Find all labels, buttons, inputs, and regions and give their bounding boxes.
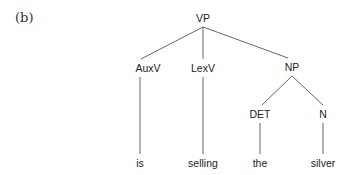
- leaf-is: is: [136, 157, 144, 169]
- node-auxv: AuxV: [135, 62, 160, 74]
- node-det: DET: [250, 108, 271, 120]
- node-vp: VP: [196, 12, 210, 24]
- tree-edges: [0, 0, 348, 175]
- edge-vp-auxv: [141, 27, 203, 59]
- edge-np-n: [292, 76, 323, 105]
- leaf-the: the: [253, 157, 268, 169]
- leaf-selling: selling: [188, 157, 218, 169]
- node-np: NP: [285, 61, 300, 73]
- edge-np-det: [262, 76, 292, 105]
- node-lexv: LexV: [191, 62, 215, 74]
- node-n: N: [319, 108, 327, 120]
- edge-vp-np: [203, 27, 288, 58]
- leaf-silver: silver: [311, 157, 336, 169]
